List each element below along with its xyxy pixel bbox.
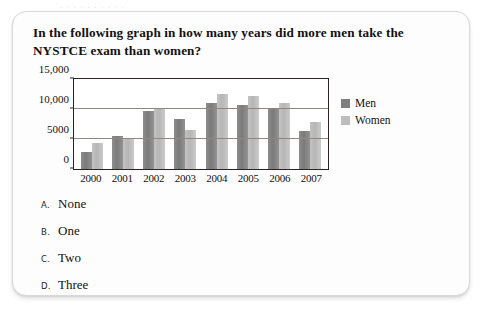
chart-y-tick-label: 5000	[47, 123, 69, 134]
chart-bar-group	[232, 79, 263, 169]
bar-chart: 0500010,00015,000 2000200120022003200420…	[21, 72, 351, 184]
legend-label: Women	[355, 115, 390, 127]
chart-x-axis-labels: 20002001200220032004200520062007	[73, 172, 329, 184]
answer-option-three[interactable]: D.Three	[41, 277, 291, 293]
chart-bar-men-2005	[237, 105, 248, 169]
chart-y-tick-mark	[70, 168, 74, 169]
answer-option-one[interactable]: B.One	[41, 223, 291, 239]
answer-option-two[interactable]: C.Two	[41, 250, 291, 266]
chart-bar-women-2001	[123, 138, 134, 169]
legend-label: Men	[355, 98, 376, 110]
option-text: Two	[58, 250, 81, 266]
page-bleed-text: . . . . . . . . . .	[60, 0, 448, 9]
question-text: In the following graph in how many years…	[33, 24, 438, 59]
chart-x-tick-label: 2001	[107, 172, 139, 184]
option-letter: C.	[41, 254, 58, 264]
chart-x-tick-label: 2004	[201, 172, 233, 184]
option-letter: A.	[41, 200, 58, 210]
question-card: In the following graph in how many years…	[12, 11, 470, 296]
chart-bar-women-2005	[248, 96, 259, 169]
chart-x-tick-label: 2007	[296, 172, 328, 184]
legend-swatch-icon	[341, 116, 350, 125]
option-text: Three	[58, 277, 88, 293]
chart-y-tick-label: 0	[64, 153, 70, 164]
chart-x-tick-label: 2000	[75, 172, 107, 184]
chart-x-tick-label: 2005	[233, 172, 265, 184]
chart-bar-women-2006	[279, 103, 290, 169]
chart-bar-men-2001	[112, 136, 123, 169]
answer-option-none[interactable]: A.None	[41, 196, 291, 212]
chart-bar-group	[201, 79, 232, 169]
chart-bar-group	[264, 79, 295, 169]
chart-bars	[74, 79, 328, 169]
answer-options: A.NoneB.OneC.TwoD.Three	[41, 196, 291, 304]
legend-swatch-icon	[341, 99, 350, 108]
option-letter: B.	[41, 227, 58, 237]
chart-bar-women-2003	[185, 130, 196, 169]
legend-item-men: Men	[341, 98, 425, 110]
chart-y-tick-label: 10,000	[39, 93, 69, 104]
option-text: None	[58, 196, 86, 212]
chart-y-tick-mark	[70, 78, 74, 79]
chart-bar-women-2000	[92, 143, 103, 169]
chart-legend: MenWomen	[341, 98, 425, 131]
chart-bar-men-2003	[174, 119, 185, 169]
chart-x-tick-label: 2002	[138, 172, 170, 184]
chart-bar-group	[170, 79, 201, 169]
chart-bar-men-2000	[81, 152, 92, 169]
chart-x-tick-label: 2003	[170, 172, 202, 184]
option-letter: D.	[41, 281, 58, 291]
option-text: One	[58, 223, 80, 239]
chart-plot-area: 0500010,00015,000	[73, 78, 329, 170]
chart-bar-men-2007	[299, 131, 310, 169]
chart-bar-women-2004	[217, 94, 228, 169]
chart-bar-men-2004	[206, 103, 217, 169]
legend-item-women: Women	[341, 115, 425, 127]
chart-gridline	[74, 108, 328, 109]
chart-y-tick-label: 15,000	[39, 63, 69, 74]
chart-bar-group	[76, 79, 107, 169]
chart-bar-group	[139, 79, 170, 169]
chart-bar-men-2002	[143, 111, 154, 169]
chart-gridline	[74, 138, 328, 139]
chart-bar-group	[295, 79, 326, 169]
chart-bar-group	[107, 79, 138, 169]
chart-bar-women-2007	[310, 122, 321, 169]
chart-x-tick-label: 2006	[264, 172, 296, 184]
chart-y-tick-mark	[70, 138, 74, 139]
chart-y-tick-mark	[70, 108, 74, 109]
